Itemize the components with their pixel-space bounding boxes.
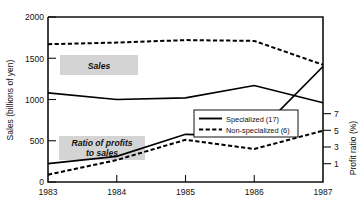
annotation-ratio-label-line1: Ratio of profits [71,138,132,148]
xtick-label-1985: 1985 [176,187,195,197]
annotation-sales-label: Sales [88,61,111,71]
chart-legend[interactable]: Specialized (17) Non-specialized (6) [194,110,298,137]
chart-svg: 2000 1500 1000 500 0 Sales (billions of … [0,0,363,208]
xtick-label-1983: 1983 [39,187,58,197]
ytick-label-2000: 2000 [25,12,44,22]
y2tick-label-1: 1 [334,159,339,169]
xtick-label-1984: 1984 [107,187,126,197]
y2tick-label-5: 5 [334,126,339,136]
y-axis-title: Sales (billions of yen) [5,59,15,140]
y2tick-label-3: 3 [334,142,339,152]
legend-label-specialized: Specialized (17) [226,115,279,124]
legend-label-non-specialized: Non-specialized (6) [226,126,290,135]
ytick-label-1500: 1500 [25,54,44,64]
ytick-label-500: 500 [30,136,44,146]
y2-axis-title: Profit ratio (%) [348,121,358,175]
chart-figure: 2000 1500 1000 500 0 Sales (billions of … [0,0,363,208]
y2tick-label-7: 7 [334,109,339,119]
ytick-label-1000: 1000 [25,95,44,105]
ytick-label-0: 0 [39,177,44,187]
xtick-label-1987: 1987 [314,187,333,197]
chart-background [0,0,363,208]
xtick-label-1986: 1986 [245,187,264,197]
